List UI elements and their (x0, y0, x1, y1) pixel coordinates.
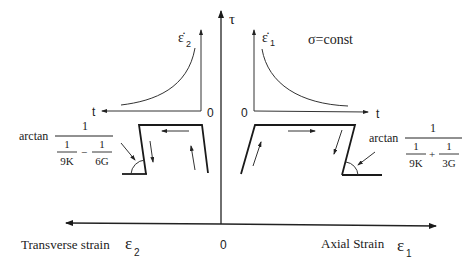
left-inset-t-label: t (92, 105, 96, 119)
right-loop-arrow-up (253, 142, 261, 166)
origin-label: 0 (220, 238, 227, 252)
right-inset-plot: t 0 ε̇ 1 σ=const (241, 30, 380, 121)
left-formula-t1-den: 9K (60, 155, 74, 167)
axial-strain-label: Axial Strain ε 1 (321, 236, 412, 259)
right-loop-arrow-down (334, 130, 342, 154)
axial-strain-text: Axial Strain (321, 236, 385, 251)
right-formula-prefix: arctan (369, 131, 398, 145)
right-formula-numerator: 1 (430, 121, 436, 135)
left-loop-arrow-up (191, 146, 195, 170)
right-inset-y-symbol: ε̇ (262, 30, 269, 45)
right-formula-t1-num: 1 (413, 140, 419, 152)
constant-stress-label: σ=const (308, 32, 353, 47)
right-angle-pointer-arrow (358, 152, 375, 165)
right-loading-path (241, 125, 382, 175)
right-inset-origin-label: 0 (241, 106, 248, 120)
left-formula-t2-num: 1 (99, 138, 105, 150)
right-angle-arc (346, 162, 358, 175)
left-formula-prefix: arctan (19, 129, 48, 143)
right-inset-y-subscript: 1 (270, 38, 275, 48)
right-formula-operator: + (429, 148, 435, 160)
transverse-strain-text: Transverse strain (21, 237, 110, 252)
right-inset-t-axis (254, 111, 368, 112)
transverse-strain-label: Transverse strain ε 2 (21, 234, 140, 258)
axial-strain-axis (221, 224, 436, 226)
left-formula-t2-den: 6G (95, 155, 109, 167)
left-slope-formula: arctan 1 1 9K − 1 6G (19, 119, 113, 167)
left-inset-creep-curve (121, 48, 195, 105)
transverse-strain-subscript: 2 (134, 247, 140, 258)
left-formula-numerator: 1 (82, 119, 88, 133)
transverse-strain-symbol: ε (125, 234, 132, 253)
right-inset-t-label: t (376, 107, 380, 121)
left-loop-outline (139, 125, 208, 174)
right-formula-t2-den: 3G (442, 157, 456, 169)
left-angle-arc (131, 160, 145, 174)
right-slope-formula: arctan 1 1 9K + 1 3G (369, 121, 462, 169)
right-inset-creep-curve (262, 49, 348, 106)
left-loop-arrow-down (150, 141, 153, 162)
tau-axis-label: τ (229, 11, 235, 27)
axial-strain-symbol: ε (397, 236, 404, 255)
left-formula-operator: − (81, 146, 87, 158)
stress-strain-creep-diagram: τ 0 Transverse strain ε 2 Axial Strain ε… (0, 0, 476, 263)
left-formula-t1-num: 1 (64, 138, 70, 150)
axial-strain-subscript: 1 (406, 248, 412, 259)
left-inset-plot: t 0 ε̇ 2 (92, 30, 214, 120)
transverse-strain-axis (66, 223, 221, 224)
right-formula-t1-den: 9K (409, 157, 423, 169)
left-inset-y-subscript: 2 (186, 39, 191, 49)
left-angle-pointer-arrow (121, 143, 135, 160)
left-inset-origin-label: 0 (207, 106, 214, 120)
left-loading-path (121, 125, 208, 174)
left-inset-y-symbol: ε̇ (178, 30, 185, 45)
right-formula-t2-num: 1 (446, 140, 452, 152)
